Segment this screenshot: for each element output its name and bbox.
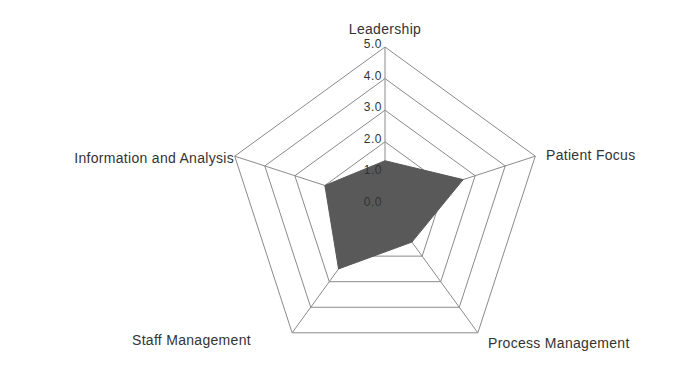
tick-label: 3.0: [364, 100, 382, 114]
axis-label-patient-focus: Patient Focus: [546, 147, 636, 163]
tick-label: 1.0: [364, 163, 382, 177]
tick-label: 5.0: [364, 37, 382, 51]
axis-label-information-and-analysis: Information and Analysis: [74, 150, 234, 166]
axis-label-staff-management: Staff Management: [132, 332, 251, 348]
radar-chart: 0.01.02.03.04.05.0 LeadershipPatient Foc…: [0, 0, 690, 365]
axis-label-process-management: Process Management: [488, 335, 630, 351]
tick-label: 4.0: [364, 69, 382, 83]
series-area: [325, 161, 463, 269]
axis-label-leadership: Leadership: [349, 21, 421, 37]
tick-label: 2.0: [364, 132, 382, 146]
tick-label: 0.0: [364, 195, 382, 209]
radar-series: [325, 161, 463, 269]
